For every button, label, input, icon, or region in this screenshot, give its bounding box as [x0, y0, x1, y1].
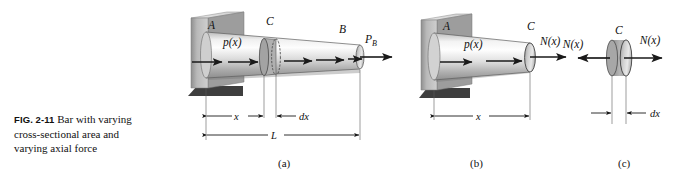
panel-a: A p(x) C B PB x dx: [188, 12, 392, 141]
panel-b-label-Nx: N(x): [539, 35, 561, 48]
panel-label-a: (a): [278, 157, 290, 169]
panel-b-bar-root-section: [428, 33, 440, 80]
panel-b-dimension-x: x: [435, 111, 529, 122]
panel-c: C N(x) N(x) dx: [562, 24, 662, 124]
panel-b-label-A: A: [442, 20, 451, 32]
panel-c-dim-dx-label: dx: [650, 108, 660, 119]
panel-a-label-B: B: [339, 23, 346, 35]
panel-c-dimension-dx: dx: [591, 108, 660, 119]
panel-a-label-A: A: [207, 19, 216, 31]
figure-drawing: A p(x) C B PB x dx: [0, 0, 684, 182]
panel-c-label-Nx-right: N(x): [639, 34, 661, 47]
figure-container: FIG. 2-11 Bar with varying cross-section…: [0, 0, 684, 182]
panel-a-label-PB: PB: [364, 33, 377, 48]
panel-a-label-px: p(x): [222, 36, 242, 49]
panel-a-dim-L-label: L: [270, 130, 277, 141]
panel-b: A p(x) C N(x) x: [419, 14, 566, 122]
panel-b-label-C: C: [527, 20, 535, 32]
panel-a-label-PB-sub: B: [372, 39, 377, 48]
panel-a-label-PB-base: P: [364, 33, 372, 45]
panel-label-c: (c): [618, 157, 630, 169]
panel-a-dimension-x: x: [207, 111, 263, 122]
panel-label-b: (b): [470, 157, 483, 169]
panel-a-label-C: C: [266, 15, 274, 27]
panel-c-label-Nx-left: N(x): [562, 38, 584, 51]
panel-a-section-C-left-face: [259, 38, 268, 75]
panel-c-label-C: C: [615, 24, 623, 36]
panel-a-dimension-L: L: [207, 130, 359, 141]
panel-c-dimension-extension-lines: [612, 76, 626, 124]
panel-a-dim-dx-label: dx: [299, 111, 309, 122]
panel-a-bar-root-section: [201, 32, 212, 78]
panel-b-label-px: p(x): [463, 38, 483, 51]
panel-a-dim-x-label: x: [233, 111, 239, 122]
panel-b-dim-x-label: x: [475, 111, 481, 122]
panel-a-dimension-dx: dx: [277, 111, 309, 122]
